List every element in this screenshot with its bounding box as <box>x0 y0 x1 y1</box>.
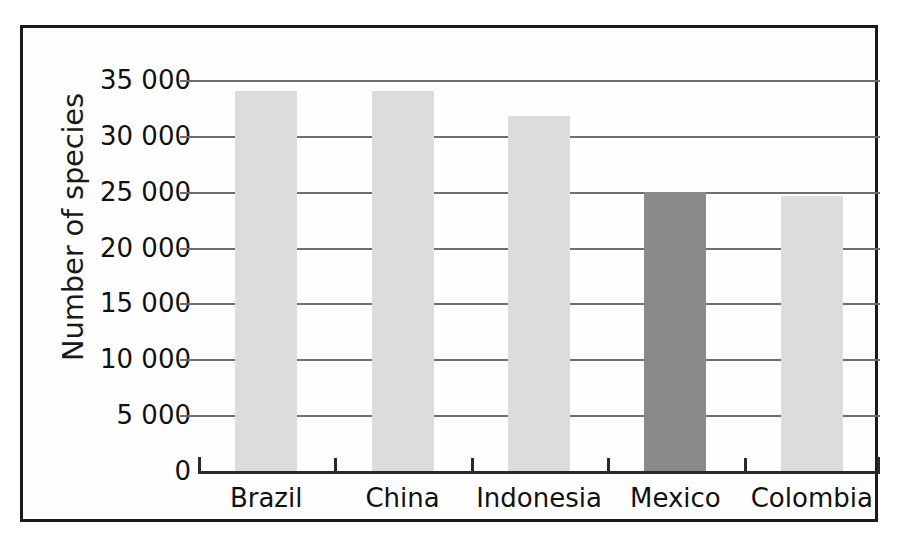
y-axis-tick-label: 30 000 <box>71 121 191 151</box>
y-axis-tick-mark <box>180 136 198 138</box>
bar-mexico <box>644 192 706 471</box>
plot-area <box>198 55 880 471</box>
y-axis-tick-label: 5 000 <box>71 400 191 430</box>
axis-left-cap <box>198 457 201 471</box>
figure-canvas: Number of species 05 00010 00015 00020 0… <box>0 0 899 543</box>
y-axis-tick-mark <box>180 192 198 194</box>
y-axis-tick-mark <box>180 80 198 82</box>
x-axis-tick-label-brazil: Brazil <box>230 483 303 513</box>
x-axis-tick-label-colombia: Colombia <box>751 483 873 513</box>
y-axis-tick-label: 15 000 <box>71 288 191 318</box>
y-axis-tick-label: 0 <box>71 456 191 486</box>
bar-indonesia <box>508 116 570 471</box>
y-axis-tick-label: 20 000 <box>71 233 191 263</box>
x-axis-tick-labels: BrazilChinaIndonesiaMexicoColombia <box>198 483 880 527</box>
bar-china <box>372 91 434 471</box>
x-axis-tick-label-china: China <box>365 483 439 513</box>
y-axis-tick-mark <box>180 303 198 305</box>
y-axis-tick-label: 10 000 <box>71 344 191 374</box>
y-axis-tick-labels: 05 00010 00015 00020 00025 00030 00035 0… <box>71 53 191 493</box>
y-axis-tick-mark <box>180 248 198 250</box>
y-axis-tick-label: 25 000 <box>71 177 191 207</box>
axis-baseline <box>198 471 880 474</box>
x-axis-tick-label-indonesia: Indonesia <box>476 483 602 513</box>
x-axis-tick-mark <box>334 458 337 471</box>
chart-frame: Number of species 05 00010 00015 00020 0… <box>20 25 878 522</box>
x-axis-tick-mark <box>607 458 610 471</box>
bar-colombia <box>781 196 843 471</box>
y-axis-tick-mark <box>180 415 198 417</box>
gridline <box>198 80 880 82</box>
y-axis-tick-mark <box>180 359 198 361</box>
x-axis-tick-mark <box>471 458 474 471</box>
y-axis-tick-label: 35 000 <box>71 65 191 95</box>
bar-brazil <box>235 91 297 471</box>
axis-right-cap <box>877 457 880 471</box>
x-axis-tick-label-mexico: Mexico <box>630 483 721 513</box>
x-axis-tick-mark <box>744 458 747 471</box>
